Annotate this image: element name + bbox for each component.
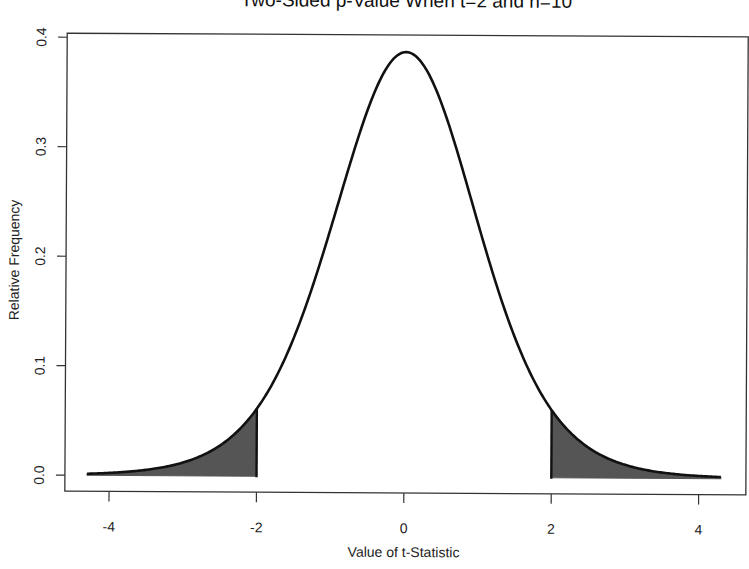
x-axis: -4-2024 xyxy=(103,491,703,537)
x-tick-label: 0 xyxy=(400,520,408,536)
x-axis-label: Value of t-Statistic xyxy=(348,544,460,561)
y-axis-label: Relative Frequency xyxy=(6,200,23,321)
shaded-tail-regions xyxy=(87,408,721,479)
t-distribution-chart: Two-Sided p-Value When t=2 and n=10 0.00… xyxy=(0,0,749,569)
x-tick-label: 2 xyxy=(547,521,555,537)
y-tick-label: 0.2 xyxy=(32,246,48,266)
x-tick-label: -4 xyxy=(103,518,116,534)
y-tick-label: 0.0 xyxy=(31,465,47,485)
tail-boundaries xyxy=(257,409,552,479)
plot-frame xyxy=(65,33,748,495)
chart-title: Two-Sided p-Value When t=2 and n=10 xyxy=(241,0,572,12)
y-tick-label: 0.1 xyxy=(31,356,47,376)
density-curve xyxy=(87,50,723,477)
y-tick-label: 0.3 xyxy=(33,137,49,157)
x-tick-label: 4 xyxy=(695,522,703,538)
y-tick-label: 0.4 xyxy=(33,27,49,47)
x-tick-label: -2 xyxy=(250,519,263,535)
y-axis: 0.00.10.20.30.4 xyxy=(31,27,67,485)
